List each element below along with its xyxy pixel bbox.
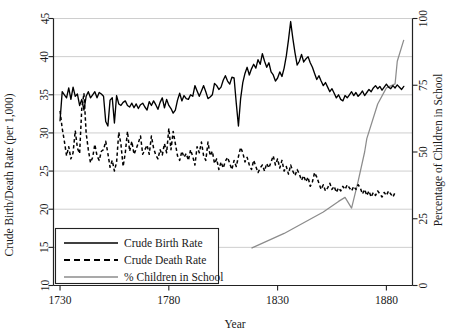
- series-line-birth-rate: [60, 22, 404, 127]
- y-tick-label-right: 25: [417, 213, 429, 225]
- x-axis-ticks: 1730178018301880: [49, 286, 399, 306]
- gridlines: [54, 19, 413, 248]
- y-tick-label-right: 100: [417, 10, 429, 28]
- y-axis-left-title: Crude Birth/Death Rate (per 1,000): [3, 93, 16, 256]
- y-tick-label-right: 0: [417, 282, 429, 288]
- legend-label-1: Crude Birth Rate: [124, 237, 203, 249]
- x-axis-title: Year: [224, 318, 245, 330]
- x-tick-label: 1780: [157, 294, 180, 306]
- y-axis-left-ticks: 1015202530354045: [39, 13, 54, 292]
- x-tick-label: 1830: [266, 294, 289, 306]
- y-tick-label-left: 30: [39, 127, 51, 139]
- birth-death-school-line-chart: 1015202530354045 0255075100 173017801830…: [0, 0, 451, 333]
- chart-container: 1015202530354045 0255075100 173017801830…: [0, 0, 451, 333]
- y-tick-label-left: 40: [39, 51, 51, 63]
- series-line-death-rate: [60, 93, 395, 197]
- x-tick-label: 1880: [375, 294, 398, 306]
- data-series-layer: [60, 22, 404, 249]
- y-tick-label-left: 35: [39, 89, 51, 101]
- y-tick-label-left: 10: [39, 280, 51, 292]
- legend-label-2: Crude Death Rate: [124, 254, 206, 266]
- y-tick-label-right: 75: [417, 79, 429, 91]
- y-axis-right-ticks: 0255075100: [413, 10, 429, 289]
- x-tick-label: 1730: [49, 294, 72, 306]
- y-tick-label-left: 20: [39, 203, 51, 215]
- chart-legend: Crude Birth RateCrude Death Rate% Childr…: [56, 229, 224, 284]
- legend-label-3: % Children in School: [124, 271, 223, 283]
- y-axis-right-title: Percentage of Children in School: [432, 74, 445, 227]
- y-tick-label-left: 45: [39, 13, 51, 25]
- y-tick-label-right: 50: [417, 146, 429, 158]
- y-tick-label-left: 15: [39, 241, 51, 253]
- y-tick-label-left: 25: [39, 165, 51, 177]
- series-line-school: [251, 40, 403, 248]
